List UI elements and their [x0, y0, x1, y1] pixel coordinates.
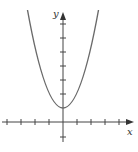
x-axis — [2, 119, 134, 125]
y-axis-label: y — [52, 8, 59, 19]
parabola-chart: y x — [0, 0, 138, 152]
x-axis-label: x — [127, 126, 133, 137]
